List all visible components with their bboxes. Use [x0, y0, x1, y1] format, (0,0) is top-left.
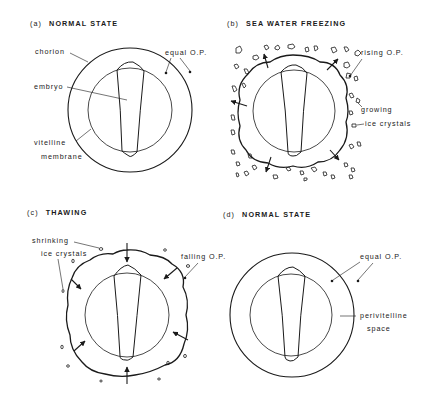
- panel-b: (b) SEA WATER FREEZING: [227, 12, 411, 181]
- panel-a: (a) NORMAL STATE chorion embryo vitellin…: [30, 12, 207, 172]
- op-dot: [189, 71, 192, 74]
- vitelline-membrane-circle: [85, 273, 169, 357]
- label-falling-op: falling O.P.: [181, 252, 226, 261]
- label-growing: growing: [361, 105, 392, 114]
- label-membrane: membrane: [41, 152, 83, 161]
- label-embryo: embryo: [34, 82, 63, 91]
- op-dot: [357, 280, 360, 283]
- label-shrinking: shrinking: [32, 236, 69, 245]
- label-space: space: [367, 324, 391, 333]
- leader-ice-crystals-c: [58, 259, 63, 289]
- egg-freezing-diagram: (a) NORMAL STATE chorion embryo vitellin…: [0, 0, 435, 403]
- label-rising-op: rising O.P.: [361, 48, 404, 57]
- vitelline-membrane-circle: [253, 70, 335, 152]
- chorion-circle: [230, 253, 354, 377]
- panel-d-title: (d) NORMAL STATE: [223, 203, 311, 220]
- panel-b-title: (b) SEA WATER FREEZING: [227, 12, 346, 29]
- leader-op-d2: [358, 263, 373, 280]
- arrow-inward-icon: [173, 332, 188, 340]
- label-ice-crystals-b: ice crystals: [365, 119, 411, 128]
- vitelline-membrane-circle: [88, 68, 172, 152]
- embryo-shape: [114, 265, 141, 360]
- embryo-shape: [278, 267, 305, 361]
- arrow-inward-icon: [71, 279, 81, 289]
- label-equal-op-d: equal O.P.: [360, 252, 402, 261]
- ice-crystals-small: [61, 248, 190, 382]
- leader-ice-crystals-b: [357, 124, 364, 125]
- panel-a-title: (a) NORMAL STATE: [30, 12, 118, 29]
- leader-shrinking: [74, 242, 99, 248]
- label-perivitelline: perivitelline: [360, 311, 408, 320]
- arrow-inward-icon: [74, 341, 85, 351]
- label-chorion: chorion: [35, 47, 65, 56]
- label-vitelline: vitelline: [34, 138, 66, 147]
- arrow-inward-icon: [164, 268, 177, 279]
- leader-chorion: [70, 53, 88, 62]
- leader-op-d1: [333, 262, 360, 280]
- label-equal-op-a: equal O.P.: [165, 48, 207, 57]
- chorion-expanding: [238, 55, 348, 167]
- label-ice-crystals-c: ice crystals: [41, 249, 87, 258]
- embryo-shape: [117, 62, 144, 157]
- embryo-shape: [281, 65, 307, 156]
- chorion-circle: [68, 48, 192, 172]
- op-dot: [331, 280, 334, 283]
- leader-op-a2: [180, 58, 190, 71]
- op-dot: [165, 72, 168, 75]
- panel-c: (c) THAWING shrinking ic: [27, 201, 226, 384]
- panel-c-title: (c) THAWING: [27, 201, 87, 218]
- panel-d: (d) NORMAL STATE equal O.P. perivitellin…: [223, 203, 408, 377]
- vitelline-membrane-circle: [250, 274, 332, 356]
- leader-vitelline: [76, 129, 91, 141]
- leader-embryo: [67, 87, 127, 100]
- op-dot: [184, 277, 187, 280]
- op-dot: [349, 75, 352, 78]
- leader-rising-op: [350, 59, 362, 76]
- arrow-outward-icon: [264, 54, 268, 68]
